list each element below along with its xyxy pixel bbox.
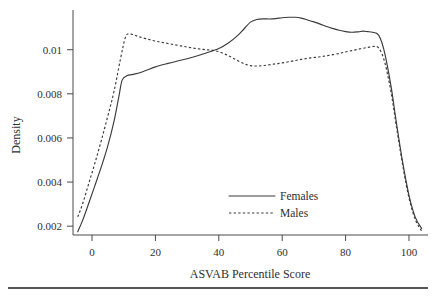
x-tick-label: 40 <box>213 246 225 258</box>
y-tick-label: 0.01 <box>43 44 62 56</box>
y-axis-title: Density <box>9 116 23 153</box>
y-tick-label: 0.006 <box>37 132 62 144</box>
density-plot-chart: 0.0020.0040.0060.0080.01 020406080100 AS… <box>0 0 435 297</box>
legend-label-females: Females <box>280 190 319 202</box>
x-tick-label: 60 <box>277 246 289 258</box>
y-tick-label: 0.002 <box>37 220 62 232</box>
x-axis-title: ASVAB Percentile Score <box>190 267 310 281</box>
figure-container: 0.0020.0040.0060.0080.01 020406080100 AS… <box>0 0 435 297</box>
y-tick-label: 0.004 <box>37 176 62 188</box>
x-tick-label: 20 <box>150 246 162 258</box>
x-tick-label: 100 <box>401 246 418 258</box>
legend-label-males: Males <box>280 207 309 219</box>
y-tick-label: 0.008 <box>37 88 62 100</box>
x-tick-label: 80 <box>340 246 352 258</box>
x-tick-label: 0 <box>89 246 95 258</box>
